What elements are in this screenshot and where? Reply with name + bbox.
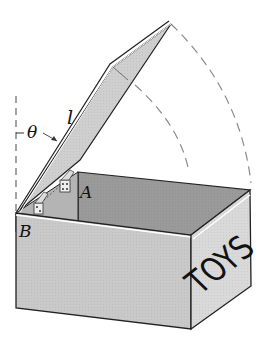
hinge-a-label: A: [78, 182, 92, 202]
theta-label: θ: [27, 122, 37, 142]
outer-sweep-arc: [171, 24, 251, 183]
inner-sweep-arc: [135, 85, 189, 172]
length-label: l: [67, 106, 73, 128]
toy-box-diagram: TOYS θ l A B: [0, 0, 271, 339]
hinge-b-label: B: [18, 221, 32, 241]
